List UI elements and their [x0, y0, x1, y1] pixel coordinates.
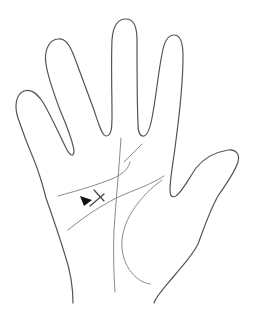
minor-line	[124, 144, 142, 162]
arrow-marker-icon	[80, 196, 92, 206]
hand-illustration	[0, 0, 256, 320]
hand-palm-diagram	[0, 0, 256, 320]
hand-outline	[16, 19, 239, 303]
cross-marker-icon	[90, 190, 104, 206]
life-line	[122, 180, 162, 284]
fate-line	[114, 138, 121, 292]
